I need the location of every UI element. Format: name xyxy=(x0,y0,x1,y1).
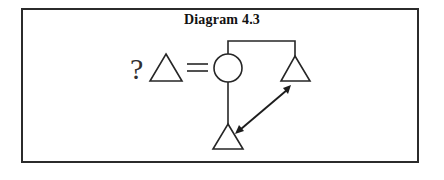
double-arrow-shaft xyxy=(241,90,287,129)
left-triangle-shape xyxy=(150,54,182,81)
circle-to-right-triangle-connector xyxy=(228,41,295,56)
right-triangle-shape xyxy=(281,56,310,81)
diagram-canvas: ? xyxy=(0,0,444,180)
arrow-head-lower-icon xyxy=(235,125,244,134)
figure-root: Diagram 4.3 ? xyxy=(0,0,444,180)
question-mark-glyph: ? xyxy=(130,52,143,85)
hub-circle-shape xyxy=(214,54,242,82)
